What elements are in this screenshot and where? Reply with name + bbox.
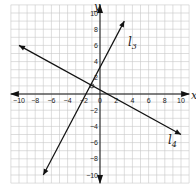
svg-text:−2: −2 — [90, 107, 98, 114]
svg-text:8: 8 — [94, 26, 98, 33]
svg-text:−4: −4 — [90, 123, 98, 130]
axes — [10, 4, 190, 184]
svg-text:4: 4 — [94, 58, 98, 65]
svg-text:−6: −6 — [90, 139, 98, 146]
svg-text:0: 0 — [98, 97, 102, 104]
svg-text:6: 6 — [147, 97, 151, 104]
svg-text:−10: −10 — [13, 97, 25, 104]
x-axis-label: x — [191, 89, 196, 102]
line-l4-label: l4 — [168, 133, 177, 149]
svg-text:4: 4 — [130, 97, 134, 104]
coordinate-graph: −10−8−6−4−20246810108642−2−4−6−8−10 x y … — [0, 0, 196, 184]
svg-text:10: 10 — [177, 97, 185, 104]
y-axis-label: y — [93, 0, 101, 13]
svg-text:8: 8 — [163, 97, 167, 104]
svg-text:−8: −8 — [90, 155, 98, 162]
svg-text:6: 6 — [94, 42, 98, 49]
svg-text:−10: −10 — [86, 172, 98, 179]
svg-text:−6: −6 — [47, 97, 55, 104]
svg-text:−8: −8 — [31, 97, 39, 104]
svg-text:−4: −4 — [64, 97, 72, 104]
